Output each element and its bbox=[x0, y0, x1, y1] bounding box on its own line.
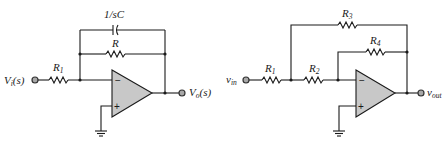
right-r3-label: R3 bbox=[341, 7, 353, 21]
left-junction-r-out bbox=[163, 52, 166, 55]
right-circuit: vin R1 R2 R3 R4 − + vout bbox=[226, 7, 442, 136]
left-r1-resistor bbox=[49, 77, 68, 83]
right-output-terminal bbox=[418, 90, 424, 96]
left-input-label: Vi(s) bbox=[4, 74, 25, 88]
wire bbox=[339, 106, 356, 131]
wire bbox=[101, 106, 112, 131]
right-opamp-plus: + bbox=[358, 101, 364, 112]
right-r4-label: R4 bbox=[369, 34, 381, 48]
left-output-terminal bbox=[179, 90, 185, 96]
circuit-diagrams: Vi(s) R1 1/sC R − + Vo(s) bbox=[0, 0, 448, 146]
left-junction-output bbox=[163, 91, 166, 94]
right-junction-output bbox=[405, 91, 408, 94]
left-capacitor-label: 1/sC bbox=[104, 8, 125, 20]
right-r4-resistor bbox=[366, 49, 385, 55]
right-input-label: vin bbox=[226, 73, 237, 87]
right-output-label: vout bbox=[427, 86, 442, 100]
right-r1-label: R1 bbox=[264, 62, 275, 76]
left-r1-label: R1 bbox=[52, 61, 63, 75]
left-opamp-minus: − bbox=[115, 75, 121, 86]
right-junction-r4 bbox=[405, 50, 408, 53]
left-r-label: R bbox=[111, 37, 119, 49]
left-output-label: Vo(s) bbox=[189, 86, 211, 100]
right-r3-resistor bbox=[338, 22, 357, 28]
left-circuit: Vi(s) R1 1/sC R − + Vo(s) bbox=[4, 8, 211, 136]
right-r2-resistor bbox=[304, 77, 323, 83]
right-r1-resistor bbox=[262, 77, 281, 83]
left-input-terminal bbox=[32, 77, 38, 83]
right-input-terminal bbox=[243, 77, 249, 83]
left-r-resistor bbox=[106, 51, 125, 57]
right-opamp-minus: − bbox=[359, 75, 365, 86]
left-opamp-plus: + bbox=[114, 101, 120, 112]
right-r2-label: R2 bbox=[308, 62, 320, 76]
